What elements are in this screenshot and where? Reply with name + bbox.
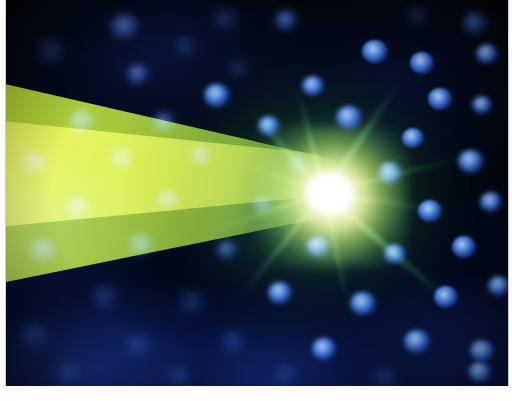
photo-frame <box>0 0 512 401</box>
caption-strip <box>0 386 512 401</box>
soma-core <box>306 172 354 214</box>
green-fluorescence-layer <box>6 0 508 386</box>
neurites-layer <box>6 0 508 386</box>
micrograph-image <box>6 0 508 386</box>
